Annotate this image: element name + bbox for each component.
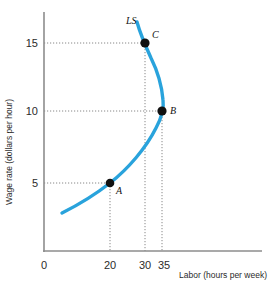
point-marker-b (157, 106, 166, 115)
point-marker-c (140, 38, 149, 47)
y-tick-label-15: 15 (26, 37, 38, 49)
point-label-a: A (115, 185, 123, 196)
x-tick-label-30: 30 (139, 259, 151, 271)
x-axis-title: Labor (hours per week) (179, 270, 267, 280)
x-tick-label-35: 35 (158, 259, 170, 271)
labor-supply-chart: A B C LS 15 10 5 0 20 30 35 Labor (hours… (0, 0, 270, 281)
y-tick-label-10: 10 (26, 105, 38, 117)
point-label-b: B (170, 105, 176, 116)
point-marker-a (106, 179, 115, 188)
y-axis-title: Wage rate (dollars per hour) (4, 99, 14, 205)
x-tick-label-0: 0 (41, 259, 47, 271)
x-tick-label-20: 20 (104, 259, 116, 271)
curve-label-ls: LS (125, 15, 137, 26)
y-tick-label-5: 5 (32, 177, 38, 189)
point-label-c: C (152, 29, 159, 40)
chart-canvas: A B C LS 15 10 5 0 20 30 35 Labor (hours… (0, 0, 270, 281)
chart-background (0, 0, 270, 281)
